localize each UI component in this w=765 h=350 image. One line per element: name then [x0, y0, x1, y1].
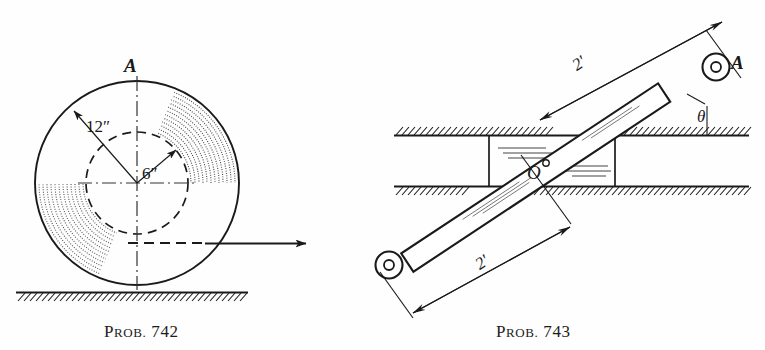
- figures-svg: [0, 0, 765, 350]
- caption-743-initial: P: [496, 322, 506, 341]
- pin-bearing-lower: [376, 252, 403, 279]
- caption-prob-743: PROB. 743: [496, 322, 571, 342]
- caption-prob-742: PROB. 742: [104, 322, 179, 342]
- outer-radius-label: 12″: [86, 117, 110, 137]
- angle-theta-label: θ: [697, 107, 705, 127]
- prob-742-drawing: [16, 76, 306, 301]
- pivot-o-label: O: [527, 162, 541, 184]
- dimension-lower-2ft: [380, 227, 570, 318]
- prob-743-drawing: [376, 22, 752, 318]
- slot-upper-wall: [394, 127, 751, 136]
- ground-hatching-742: [18, 293, 247, 301]
- caption-742-smallcaps: ROB.: [114, 325, 146, 340]
- rod-assembly[interactable]: [376, 54, 730, 279]
- inner-radius-label: 6″: [142, 164, 158, 184]
- caption-742-initial: P: [104, 322, 114, 341]
- slot-lower-wall: [394, 187, 751, 196]
- point-a-label-742: A: [124, 55, 137, 77]
- figure-plate: A 12″ 6″ A O θ 2' 2' PROB. 742 PROB. 743: [0, 0, 765, 350]
- caption-743-number: 743: [543, 322, 570, 341]
- point-a-label-743: A: [731, 52, 744, 74]
- ground-742: [16, 293, 248, 302]
- caption-743-smallcaps: ROB.: [506, 325, 538, 340]
- caption-742-number: 742: [151, 322, 178, 341]
